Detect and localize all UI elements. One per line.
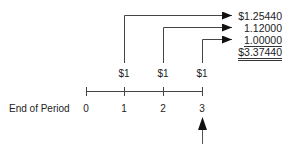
cash-flow-period-3: $1 [192,68,212,80]
value-period-1: $1.25440 [222,10,282,22]
total-value: $3.37440 [222,46,282,58]
cash-flow-period-2: $1 [153,68,173,80]
total-value-text: $3.37440 [238,46,282,61]
timeline-axis [86,87,203,96]
value-period-3: 1.00000 [222,34,282,46]
period-2-label: 2 [157,103,169,115]
period-1-label: 1 [118,103,130,115]
value-period-2: 1.12000 [222,22,282,34]
end-of-period-label: End of Period [9,103,70,115]
period-3-label: 3 [196,103,208,115]
period-0-label: 0 [80,103,92,115]
cash-flow-period-1: $1 [114,68,134,80]
up-arrow-icon [198,117,207,144]
